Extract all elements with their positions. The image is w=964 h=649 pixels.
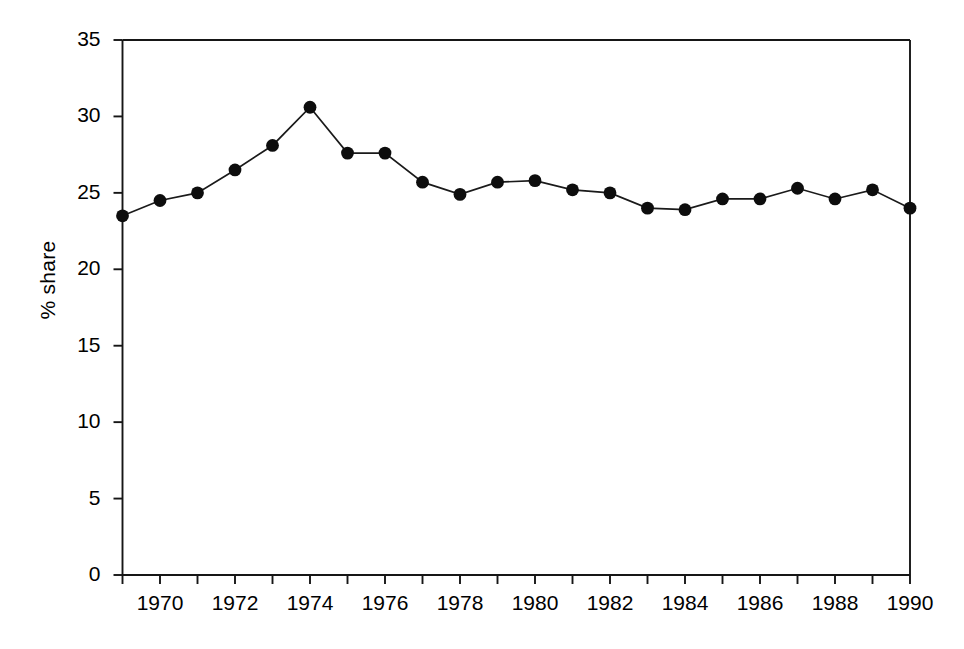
- data-point-marker: [191, 186, 204, 199]
- data-point-marker: [416, 176, 429, 189]
- data-point-marker: [566, 183, 579, 196]
- data-point-marker: [904, 202, 917, 215]
- tick-marks: [114, 40, 911, 584]
- x-tick-label: 1980: [495, 591, 575, 615]
- y-tick-label: 15: [51, 333, 101, 357]
- x-tick-label: 1986: [720, 591, 800, 615]
- data-point-marker: [791, 182, 804, 195]
- axes: [123, 40, 911, 575]
- x-tick-label: 1974: [270, 591, 350, 615]
- data-point-marker: [679, 203, 692, 216]
- x-tick-label: 1988: [795, 591, 875, 615]
- y-tick-label: 30: [51, 103, 101, 127]
- y-tick-label: 5: [51, 486, 101, 510]
- data-point-marker: [454, 188, 467, 201]
- data-point-marker: [229, 164, 242, 177]
- x-tick-label: 1978: [420, 591, 500, 615]
- y-tick-label: 0: [51, 562, 101, 586]
- line-chart: % share 05101520253035 19701972197419761…: [0, 0, 964, 649]
- y-tick-label: 10: [51, 409, 101, 433]
- data-point-marker: [379, 147, 392, 160]
- data-markers: [116, 101, 916, 222]
- data-point-marker: [266, 139, 279, 152]
- data-point-marker: [154, 194, 167, 207]
- x-tick-label: 1972: [195, 591, 275, 615]
- x-tick-label: 1984: [645, 591, 725, 615]
- x-tick-label: 1982: [570, 591, 650, 615]
- data-point-marker: [491, 176, 504, 189]
- data-point-marker: [604, 186, 617, 199]
- data-point-marker: [116, 209, 129, 222]
- data-point-marker: [754, 193, 767, 206]
- data-point-marker: [829, 193, 842, 206]
- plot-area: [0, 0, 964, 649]
- y-tick-label: 35: [51, 27, 101, 51]
- data-line-percent-share: [123, 107, 911, 216]
- x-tick-label: 1976: [345, 591, 425, 615]
- y-tick-label: 25: [51, 180, 101, 204]
- data-point-marker: [341, 147, 354, 160]
- data-point-marker: [716, 193, 729, 206]
- x-tick-label: 1990: [870, 591, 950, 615]
- data-point-marker: [866, 183, 879, 196]
- data-point-marker: [304, 101, 317, 114]
- data-point-marker: [641, 202, 654, 215]
- y-tick-label: 20: [51, 256, 101, 280]
- data-point-marker: [529, 174, 542, 187]
- x-tick-label: 1970: [120, 591, 200, 615]
